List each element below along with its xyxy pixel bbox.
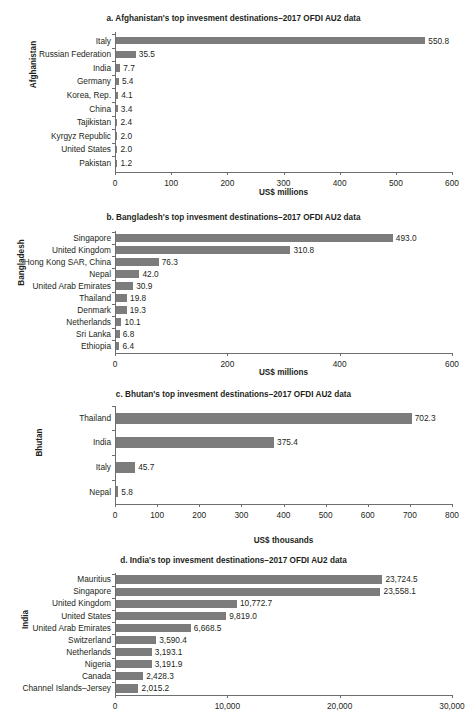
x-tick-label: 400 (333, 179, 347, 187)
bar (116, 294, 127, 302)
bar (116, 342, 120, 350)
chart-panel-d: d. India's top invesment destinations–20… (0, 0, 467, 715)
category-label: Netherlands (0, 318, 111, 326)
bar (116, 588, 381, 596)
bar-value-label: 19.3 (130, 306, 146, 314)
bar (116, 413, 412, 424)
bar (116, 437, 274, 448)
y-tick (112, 480, 115, 481)
category-label: Mauritius (0, 575, 111, 583)
y-tick (112, 316, 115, 317)
bar-value-label: 2.0 (121, 132, 133, 140)
category-label: Italy (0, 37, 111, 45)
y-tick (112, 586, 115, 587)
x-tick (326, 504, 327, 507)
y-tick (112, 406, 115, 407)
category-label: Russian Federation (0, 50, 111, 58)
x-tick (115, 353, 116, 356)
category-label: Channel Islands–Jersey (0, 684, 111, 692)
bar-value-label: 9,819.0 (229, 612, 257, 620)
bar (116, 612, 226, 620)
y-tick (112, 280, 115, 281)
y-tick (112, 574, 115, 575)
x-tick-label: 0 (113, 360, 118, 368)
x-tick-label: 10,000 (215, 702, 240, 710)
category-label: Pakistan (0, 159, 111, 167)
bar-value-label: 76.3 (162, 258, 178, 266)
category-axis-a (115, 32, 116, 172)
x-tick (284, 172, 285, 175)
category-axis-b (115, 231, 116, 353)
bar (116, 92, 118, 99)
y-tick (112, 256, 115, 257)
chart-panel-c: c. Bhutan's top invesment destinations–2… (0, 0, 467, 715)
x-tick-label: 600 (445, 360, 459, 368)
bar-value-label: 7.7 (123, 64, 135, 72)
x-tick-label: 800 (445, 511, 459, 519)
bar-value-label: 5.8 (121, 488, 133, 496)
bar (116, 64, 120, 71)
x-tick (410, 504, 411, 507)
category-label: Nepal (0, 488, 111, 496)
y-tick (112, 292, 115, 293)
y-tick (112, 598, 115, 599)
bar (116, 600, 237, 608)
bar (116, 51, 136, 58)
x-tick-label: 500 (319, 511, 333, 519)
y-tick (112, 634, 115, 635)
bar (116, 318, 122, 326)
x-tick-label: 400 (333, 360, 347, 368)
bar-value-label: 2,015.2 (142, 684, 170, 692)
bar (116, 462, 135, 473)
bar (116, 282, 133, 290)
x-tick-label: 30,000 (439, 702, 464, 710)
x-tick (452, 172, 453, 175)
x-tick (452, 695, 453, 698)
category-label: Nigeria (0, 660, 111, 668)
x-tick-label: 100 (164, 179, 178, 187)
category-label: Sri Lanka (0, 330, 111, 338)
bar-value-label: 3.4 (121, 105, 133, 113)
bar-value-label: 30.9 (136, 282, 152, 290)
x-tick (115, 504, 116, 507)
chart-panel-b: b. Bangladesh's top invesment destinatio… (0, 0, 467, 715)
category-label: Singapore (0, 587, 111, 595)
category-label: Germany (0, 77, 111, 85)
x-tick-label: 0 (113, 702, 118, 710)
chart-title-a: a. Afghanistan's top invesment destinati… (0, 14, 467, 23)
bar-value-label: 2.0 (121, 145, 133, 153)
bar (116, 246, 291, 254)
category-label: United States (0, 145, 111, 153)
y-tick (112, 646, 115, 647)
x-tick-label: 600 (361, 511, 375, 519)
x-tick-label: 100 (150, 511, 164, 519)
x-tick-label: 600 (445, 179, 459, 187)
y-tick (112, 143, 115, 144)
bar (116, 575, 383, 583)
y-tick (112, 622, 115, 623)
category-label: United States (0, 612, 111, 620)
x-tick (157, 504, 158, 507)
category-label: Singapore (0, 234, 111, 242)
bar-value-label: 10,772.7 (240, 599, 272, 607)
x-tick (199, 504, 200, 507)
bar (116, 306, 127, 314)
category-label: China (0, 105, 111, 113)
bar-value-label: 5.4 (122, 77, 134, 85)
category-label: Switzerland (0, 636, 111, 644)
bar (116, 132, 118, 139)
bar-value-label: 1.2 (121, 159, 133, 167)
x-tick-label: 200 (192, 511, 206, 519)
bar (116, 330, 120, 338)
bar-value-label: 2,428.3 (146, 672, 174, 680)
y-tick (112, 670, 115, 671)
x-axis-title-a: US$ millions (259, 189, 308, 197)
x-tick (227, 695, 228, 698)
x-axis-title-c: US$ thousands (254, 537, 314, 545)
x-tick-label: 0 (113, 511, 118, 519)
x-tick (452, 504, 453, 507)
bar (116, 37, 425, 44)
y-axis-title-a: Afghanistan (29, 41, 38, 88)
bar (116, 486, 118, 497)
y-tick (112, 304, 115, 305)
